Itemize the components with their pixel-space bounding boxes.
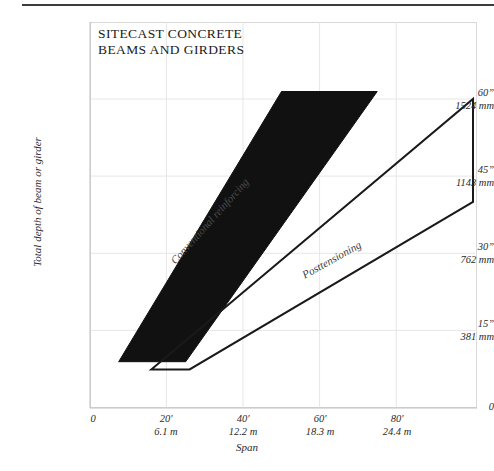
figure-container: SITECAST CONCRETE BEAMS AND GIRDERS 60” … — [0, 0, 494, 471]
y-tick-60in-primary: 60” — [478, 87, 494, 98]
x-axis-title: Span — [0, 441, 494, 453]
x-tick-0-primary: 0 — [90, 413, 95, 424]
x-tick-40ft-primary: 40' — [237, 413, 250, 424]
x-tick-80ft: 80' 24.4 m — [352, 412, 442, 438]
x-tick-80ft-primary: 80' — [391, 413, 404, 424]
y-tick-60in: 60” 1524 mm — [410, 87, 494, 112]
y-tick-45in: 45” 1143 mm — [410, 164, 494, 189]
x-tick-60ft-primary: 60' — [314, 413, 327, 424]
y-tick-30in-secondary: 762 mm — [410, 254, 494, 267]
y-tick-45in-primary: 45” — [478, 164, 494, 175]
y-tick-30in-primary: 30” — [478, 241, 494, 252]
y-axis-title: Total depth of beam or girder — [31, 107, 43, 297]
y-tick-45in-secondary: 1143 mm — [410, 177, 494, 190]
x-tick-80ft-secondary: 24.4 m — [352, 425, 442, 438]
x-tick-20ft-primary: 20' — [160, 413, 173, 424]
chart-title: SITECAST CONCRETE BEAMS AND GIRDERS — [98, 26, 244, 58]
y-tick-15in: 15” 381 mm — [410, 318, 494, 343]
y-tick-15in-secondary: 381 mm — [410, 331, 494, 344]
y-tick-0-primary: 0 — [489, 401, 494, 412]
y-tick-30in: 30” 762 mm — [410, 241, 494, 266]
y-tick-60in-secondary: 1524 mm — [410, 100, 494, 113]
y-tick-15in-primary: 15” — [478, 318, 494, 329]
